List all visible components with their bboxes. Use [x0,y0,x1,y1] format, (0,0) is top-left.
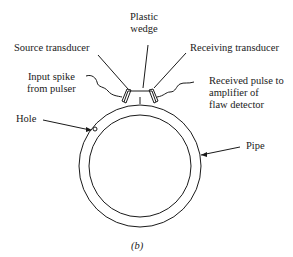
hole-label: Hole [16,113,36,125]
pipe-inner-wall [89,115,191,217]
receiving-transducer-leader [154,53,186,88]
source-transducer-leader [98,55,128,89]
input-spike-label-line1: Input spike [27,71,76,83]
diagram-graphics [0,0,293,257]
source-transducer-label: Source transducer [14,42,90,54]
plastic-wedge-label-line2: wedge [130,23,158,35]
plastic-wedge-label: Plastic wedge [130,11,158,35]
pipe-outer-wall [79,105,201,227]
received-pulse-label: Received pulse to amplifier of flaw dete… [209,75,284,111]
received-pulse-wire [157,82,194,97]
receiving-transducer-label: Receiving transducer [190,42,279,54]
received-pulse-label-line3: flaw detector [209,99,284,111]
subfigure-label: (b) [131,240,143,252]
pipe-label: Pipe [246,140,265,152]
input-spike-label: Input spike from pulser [27,71,76,95]
received-pulse-label-line2: amplifier of [209,87,284,99]
plastic-wedge-label-line1: Plastic [130,11,158,23]
plastic-wedge-leader [143,45,148,88]
ultrasonic-pipe-inspection-diagram: Plastic wedge Source transducer Receivin… [0,0,293,257]
hole-marker [93,127,97,131]
input-spike-wire [86,75,122,97]
input-spike-label-line2: from pulser [27,83,76,95]
received-pulse-label-line1: Received pulse to [209,75,284,87]
hole-leader [43,120,90,130]
